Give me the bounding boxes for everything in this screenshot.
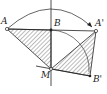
label-b1: B' — [92, 74, 102, 84]
label-b: B — [53, 18, 61, 28]
point-b1 — [89, 75, 92, 78]
arrowhead-icon — [87, 22, 92, 27]
point-a1 — [94, 29, 97, 32]
label-m: M — [40, 70, 51, 80]
triangle-abm — [7, 29, 51, 69]
rotation-diagram: A B A' M B' — [0, 0, 107, 94]
label-a1: A' — [94, 18, 104, 28]
point-b — [50, 29, 53, 32]
label-a: A — [0, 16, 8, 26]
point-a — [5, 27, 8, 30]
arc-a-to-a1 — [7, 9, 92, 29]
